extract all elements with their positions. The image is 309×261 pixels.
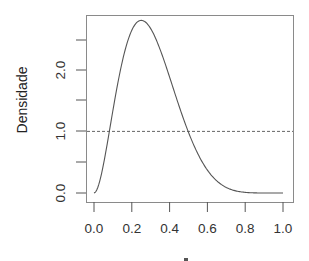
y-tick-label-1: 1.0 <box>53 122 68 141</box>
x-tick-label-1: 1.0 <box>274 221 293 236</box>
x-tick-label-0.6: 0.6 <box>198 221 217 236</box>
x-tick-label-0: 0.0 <box>85 221 104 236</box>
plot-frame <box>87 16 294 203</box>
y-tick-label-0: 0.0 <box>53 184 68 203</box>
x-tick-label-0.4: 0.4 <box>160 221 179 236</box>
x-tick-label-0.8: 0.8 <box>236 221 255 236</box>
density-curve <box>94 20 283 193</box>
x-axis: 0.0 0.2 0.4 0.6 0.8 1.0 <box>85 202 293 261</box>
density-plot: 0.0 1.0 2.0 Densidade 0.0 0.2 0.4 0.6 0.… <box>0 0 309 261</box>
y-tick-label-2: 2.0 <box>53 61 68 80</box>
y-axis-title: Densidade <box>14 66 30 133</box>
y-axis: 0.0 1.0 2.0 Densidade <box>14 40 86 202</box>
x-tick-label-0.2: 0.2 <box>122 221 141 236</box>
